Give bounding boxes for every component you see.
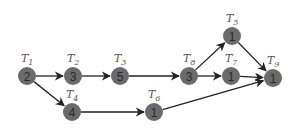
edge-t7-t9 xyxy=(240,76,263,77)
edge-t6-t9 xyxy=(163,81,264,110)
node-label: T3 xyxy=(114,52,126,67)
node-t8: 3T8 xyxy=(180,52,198,85)
node-weight: 4 xyxy=(69,106,76,120)
edge-t5-t9 xyxy=(238,42,266,70)
node-t5: 1T5 xyxy=(223,12,241,45)
node-t2: 3T2 xyxy=(64,52,82,85)
nodes-group: 2T13T25T34T41T51T61T73T81T9 xyxy=(18,12,282,121)
node-label: T4 xyxy=(66,88,78,103)
node-label: T2 xyxy=(67,52,79,67)
node-weight: 1 xyxy=(151,106,158,120)
node-t7: 1T7 xyxy=(222,52,240,85)
node-label: T1 xyxy=(21,52,33,67)
node-weight: 1 xyxy=(270,72,277,86)
node-t6: 1T6 xyxy=(145,88,163,121)
node-t3: 5T3 xyxy=(111,52,129,85)
task-graph: 2T13T25T34T41T51T61T73T81T9 xyxy=(0,0,296,132)
node-weight: 1 xyxy=(228,70,235,84)
node-weight: 5 xyxy=(117,70,124,84)
edge-t8-t5 xyxy=(196,43,225,70)
node-weight: 3 xyxy=(70,70,77,84)
node-t4: 4T4 xyxy=(63,88,81,121)
node-weight: 1 xyxy=(229,30,236,44)
node-weight: 3 xyxy=(186,70,193,84)
node-label: T9 xyxy=(267,54,279,69)
node-label: T8 xyxy=(183,52,195,67)
node-weight: 2 xyxy=(24,70,31,84)
edge-t1-t4 xyxy=(34,82,64,106)
node-label: T7 xyxy=(225,52,238,67)
node-t9: 1T9 xyxy=(264,54,282,87)
node-t1: 2T1 xyxy=(18,52,36,85)
node-label: T6 xyxy=(148,88,160,103)
node-label: T5 xyxy=(226,12,238,27)
